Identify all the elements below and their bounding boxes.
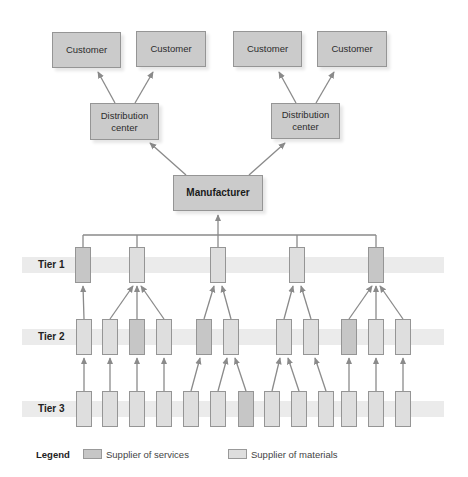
tier1-supplier-services-5	[368, 247, 384, 283]
tier3-supplier-materials-6	[210, 391, 226, 427]
tier3-supplier-materials-2	[102, 391, 118, 427]
arrow-tier3-to-tier2	[288, 358, 299, 391]
legend-item-materials: Supplier of materials	[228, 449, 338, 460]
tier3-supplier-materials-5	[183, 391, 199, 427]
tier3-supplier-materials-4	[156, 391, 172, 427]
materials-swatch-icon	[228, 449, 247, 459]
arrow-tier2-to-tier1	[110, 286, 133, 319]
customer-1-box: Customer	[52, 32, 121, 68]
arrow-tier3-to-tier2	[272, 358, 280, 391]
arrow-tier2-to-tier1	[349, 286, 372, 319]
arrow-tier2-to-tier1	[83, 286, 84, 319]
tier3-supplier-materials-9	[291, 391, 307, 427]
legend-item-services: Supplier of services	[83, 449, 212, 460]
customer-4-box: Customer	[317, 31, 387, 67]
legend-title: Legend	[36, 449, 83, 460]
arrow-distribution-center-1-to-customer-1	[98, 72, 115, 103]
tier1-supplier-materials-4	[289, 247, 305, 283]
tier3-supplier-materials-10	[318, 391, 334, 427]
tier2-supplier-services-9	[341, 319, 357, 355]
tier2-supplier-materials-7	[276, 319, 292, 355]
arrow-distribution-center-2-to-customer-4	[316, 72, 334, 103]
legend-label-services: Supplier of services	[106, 449, 212, 460]
tier1-supplier-materials-3	[210, 247, 226, 283]
arrow-tier2-to-tier1	[222, 286, 231, 319]
distribution-center-2-box: Distribution center	[271, 103, 340, 139]
distribution-center-1-box: Distribution center	[90, 103, 159, 140]
tier3-supplier-materials-8	[264, 391, 280, 427]
tier1-supplier-services-1	[75, 247, 91, 283]
tier2-supplier-materials-1	[76, 319, 92, 355]
tier2-supplier-services-3	[129, 319, 145, 355]
arrow-tier2-to-tier1	[204, 286, 214, 319]
tier2-supplier-materials-10	[368, 319, 384, 355]
tier3-supplier-materials-3	[129, 391, 145, 427]
arrow-tier3-to-tier2	[315, 358, 326, 391]
tier2-supplier-materials-8	[303, 319, 319, 355]
legend: Legend Supplier of services Supplier of …	[36, 447, 338, 461]
tier3-supplier-services-7	[238, 391, 254, 427]
arrow-tier3-to-tier2	[218, 358, 227, 391]
tier2-supplier-services-5	[196, 319, 212, 355]
tier3-supplier-materials-1	[76, 391, 92, 427]
arrow-tier2-to-tier1	[380, 286, 403, 319]
services-swatch-icon	[83, 449, 102, 459]
arrow-tier2-to-tier1	[141, 286, 164, 319]
arrow-tier2-to-tier1	[284, 286, 293, 319]
customer-3-box: Customer	[233, 31, 302, 67]
tier1-supplier-materials-2	[129, 247, 145, 283]
tier2-supplier-materials-6	[223, 319, 239, 355]
arrow-distribution-center-2-to-customer-3	[279, 72, 296, 103]
arrow-tier2-to-tier1	[301, 286, 311, 319]
arrow-tier3-to-tier2	[235, 358, 246, 391]
customer-2-box: Customer	[136, 31, 206, 67]
tier3-supplier-materials-11	[341, 391, 357, 427]
supply-chain-diagram: Tier 1Tier 2Tier 3 CustomerCustomerCusto…	[0, 0, 468, 477]
tier2-supplier-materials-4	[156, 319, 172, 355]
arrow-tier3-to-tier2	[191, 358, 200, 391]
arrow-manufacturer-to-distribution-center-2	[249, 143, 285, 175]
arrow-manufacturer-to-distribution-center-1	[150, 143, 186, 175]
tier3-supplier-materials-12	[368, 391, 384, 427]
tier3-supplier-materials-13	[395, 391, 411, 427]
tier2-supplier-materials-11	[395, 319, 411, 355]
manufacturer-box: Manufacturer	[173, 175, 263, 211]
legend-label-materials: Supplier of materials	[251, 449, 338, 460]
tier2-supplier-materials-2	[102, 319, 118, 355]
arrow-distribution-center-1-to-customer-2	[135, 72, 153, 103]
